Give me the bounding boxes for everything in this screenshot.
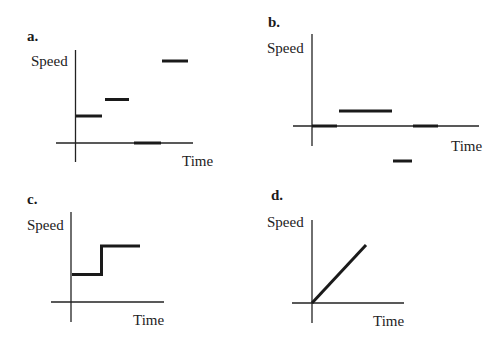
y-axis-label: Speed: [267, 40, 304, 56]
y-axis-label: Speed: [267, 214, 304, 230]
x-axis-label: Time: [182, 153, 213, 169]
panel-a: a. Speed Time: [27, 28, 213, 169]
panel-c: c. Speed Time: [27, 191, 164, 328]
y-axis-label: Speed: [27, 217, 64, 233]
speed-time-graphs: a. Speed Time b. Speed Time c. Speed Tim…: [0, 0, 501, 358]
speed-ramp-line: [312, 245, 366, 303]
panel-label: a.: [27, 28, 39, 44]
panel-label: b.: [268, 14, 280, 30]
panel-d: d. Speed Time: [267, 187, 404, 329]
x-axis-label: Time: [451, 138, 482, 154]
panel-label: c.: [27, 191, 38, 207]
y-axis-label: Speed: [31, 53, 68, 69]
x-axis-label: Time: [133, 312, 164, 328]
x-axis-label: Time: [373, 313, 404, 329]
speed-step-line: [72, 246, 140, 275]
panel-b: b. Speed Time: [267, 14, 482, 161]
panel-label: d.: [271, 187, 283, 203]
